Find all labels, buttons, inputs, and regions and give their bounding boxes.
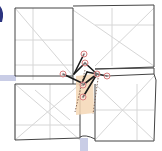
vertex-marker-5 <box>104 73 110 79</box>
flap-top-right <box>73 5 154 69</box>
crease-lines <box>15 8 154 140</box>
left-edge-shape <box>0 6 3 22</box>
vertex-marker-4 <box>94 71 100 77</box>
horizontal-axis-band <box>0 75 16 81</box>
vertical-axis-band <box>80 138 88 151</box>
fold-diagram-canvas <box>0 0 162 151</box>
vertex-marker-6 <box>80 82 86 88</box>
vertex-marker-1 <box>81 51 87 57</box>
vertex-marker-7 <box>80 94 86 100</box>
vertex-marker-3 <box>60 71 66 77</box>
vertex-marker-2 <box>82 60 88 66</box>
